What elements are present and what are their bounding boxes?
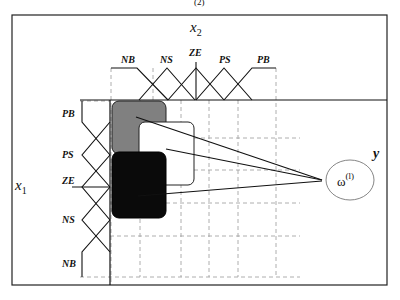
x2-labels: NB NS ZE PS PB — [120, 47, 270, 65]
y-output-label: y — [371, 146, 380, 161]
x1-label-ps: PS — [62, 149, 74, 160]
mf-x2-ns — [139, 68, 195, 100]
mf-x2-ps — [196, 68, 252, 100]
x1-membership-functions — [72, 101, 110, 277]
x2-label-nb: NB — [120, 54, 135, 65]
x1-label-pb: PB — [62, 108, 75, 119]
x1-axis-label: x1 — [14, 177, 27, 196]
mf-x1-ps — [82, 122, 110, 187]
x2-label-ze: ZE — [188, 47, 202, 58]
mf-x1-pb — [82, 101, 110, 155]
x1-label-ze: ZE — [61, 175, 75, 186]
mf-x1-ns — [82, 187, 110, 252]
x1-labels: PB PS ZE NS NB — [61, 108, 76, 269]
black-rule-cell — [112, 152, 166, 218]
x2-membership-functions — [111, 62, 276, 100]
x2-label-ps: PS — [219, 54, 231, 65]
fuzzy-rule-diagram: (2) NB N — [0, 0, 400, 300]
x1-label-nb: NB — [61, 258, 76, 269]
x2-axis-label: x2 — [189, 19, 202, 38]
x2-label-pb: PB — [257, 54, 270, 65]
mf-x1-nb — [82, 220, 110, 277]
mf-x2-nb — [111, 68, 168, 100]
mf-x2-pb — [224, 68, 276, 100]
x1-label-ns: NS — [61, 214, 75, 225]
top-fragment: (2) — [194, 0, 205, 7]
x2-label-ns: NS — [159, 54, 173, 65]
